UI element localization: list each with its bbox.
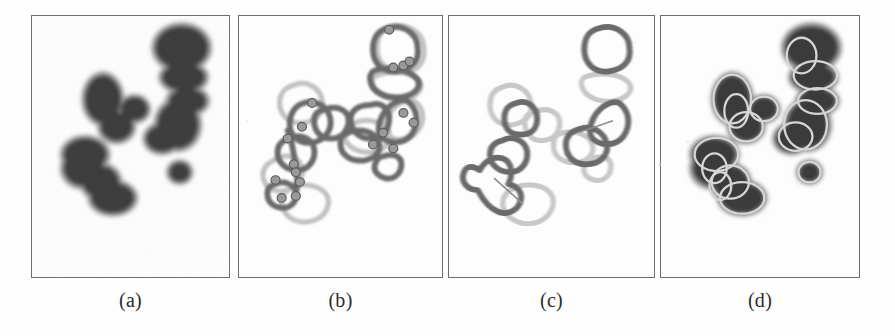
scan-speck	[686, 140, 689, 143]
panel-c-contours-with-chords	[448, 15, 655, 278]
contour-marker	[271, 176, 280, 185]
contour-marker	[289, 160, 298, 169]
contour-marker	[291, 168, 300, 177]
panel-d-contours-over-blobs	[660, 15, 860, 278]
figure-container: (a) (b) (c) (d)	[0, 0, 895, 336]
contour-marker	[385, 25, 394, 34]
contour-marker	[405, 57, 414, 66]
contour-marker	[399, 109, 408, 118]
panel-b-image	[239, 16, 442, 277]
contour-marker	[409, 118, 418, 127]
contour-marker	[283, 134, 292, 143]
panel-a-image	[32, 16, 229, 277]
panel-a-original-blobs	[31, 15, 230, 278]
caption-panel-c: (c)	[448, 289, 655, 312]
contour-marker	[295, 178, 304, 187]
panel-d-image	[661, 16, 859, 277]
contour-marker	[379, 128, 388, 137]
panel-c-image	[449, 16, 654, 277]
contour-marker	[389, 144, 398, 153]
scan-speck	[658, 163, 661, 166]
contour-marker	[277, 194, 286, 203]
scan-speck	[246, 120, 248, 122]
contour-marker	[369, 140, 378, 149]
panel-b-contours-with-markers	[238, 15, 443, 278]
caption-panel-b: (b)	[238, 289, 443, 312]
caption-panel-d: (d)	[660, 289, 860, 312]
contour-marker	[308, 99, 317, 108]
contour-marker	[297, 122, 306, 131]
caption-panel-a: (a)	[31, 289, 230, 312]
contour-marker	[291, 192, 300, 201]
contour-marker	[389, 63, 398, 72]
